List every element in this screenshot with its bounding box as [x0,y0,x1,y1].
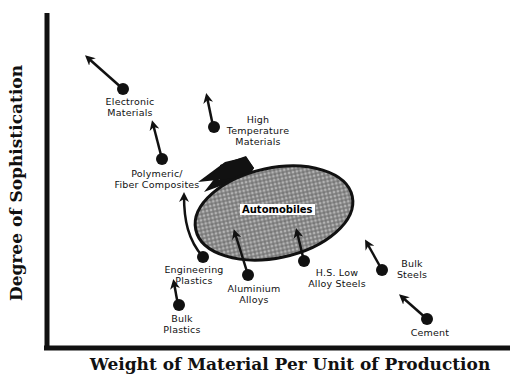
label-line: Bulk [163,313,200,324]
dot-bulk-plastics-icon [173,299,185,311]
dot-hsla-icon [298,255,310,267]
automobiles-label: Automobiles [240,204,315,215]
label-bulk-steels: Bulk Steels [397,258,427,280]
dot-engineering-plastics-icon [197,251,209,263]
label-engineering-plastics: Engineering Plastics [164,264,223,286]
label-line: Steels [397,269,427,280]
dot-electronic-icon [117,83,129,95]
label-bulk-plastics: Bulk Plastics [163,313,200,335]
label-line: High [227,114,289,125]
label-line: Materials [106,107,155,118]
arrow-electronic-icon [88,58,123,89]
label-line: Temperature [227,125,289,136]
label-line: Aluminium [228,283,281,294]
label-line: Bulk [397,258,427,269]
label-line: Alloys [228,294,281,305]
label-line: Polymeric/ [114,168,199,179]
y-axis-label-text: Degree of Sophistication [6,64,26,300]
label-high-temperature-materials: High Temperature Materials [227,114,289,147]
label-aluminium-alloys: Aluminium Alloys [228,283,281,305]
label-electronic-materials: Electronic Materials [106,96,155,118]
label-line: Materials [227,136,289,147]
y-axis-label: Degree of Sophistication [1,40,31,325]
label-polymeric-fiber-composites: Polymeric/ Fiber Composites [114,168,199,190]
label-line: Electronic [106,96,155,107]
dot-hightemp-icon [208,121,220,133]
label-line: Fiber Composites [114,179,199,190]
x-axis-label: Weight of Material Per Unit of Productio… [80,354,500,374]
dot-aluminium-icon [242,269,254,281]
label-line: H.S. Low [308,267,366,278]
label-hs-low-alloy-steels: H.S. Low Alloy Steels [308,267,366,289]
label-line: Plastics [164,275,223,286]
label-line: Alloy Steels [308,278,366,289]
dot-polymeric-icon [156,153,168,165]
dot-bulk-steels-icon [376,264,388,276]
dot-cement-icon [421,313,433,325]
label-line: Cement [411,327,450,338]
label-cement: Cement [411,327,450,338]
label-line: Plastics [163,324,200,335]
label-line: Engineering [164,264,223,275]
